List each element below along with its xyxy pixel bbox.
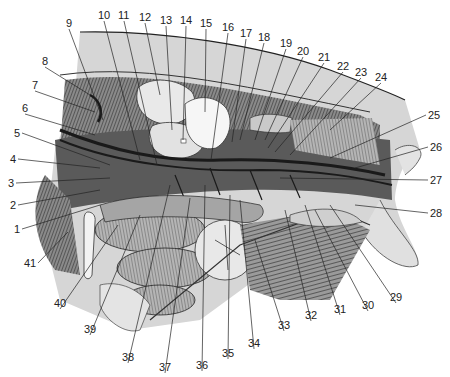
callout-label-13: 13 [160,15,172,26]
callout-label-36: 36 [196,360,208,371]
callout-label-6: 6 [22,103,28,114]
callout-label-34: 34 [248,338,260,349]
illustration-drawing [0,0,450,377]
callout-label-27: 27 [430,175,442,186]
callout-label-20: 20 [297,46,309,57]
callout-label-5: 5 [14,128,20,139]
anatomical-figure: 1234567891011121314151617181920212223242… [0,0,450,377]
callout-label-4: 4 [10,154,16,165]
callout-label-17: 17 [240,28,252,39]
callout-label-35: 35 [222,348,234,359]
callout-label-10: 10 [98,10,110,21]
callout-label-2: 2 [10,200,16,211]
callout-label-23: 23 [355,67,367,78]
callout-label-41: 41 [24,258,36,269]
callout-label-29: 29 [390,292,402,303]
callout-label-28: 28 [430,208,442,219]
callout-label-7: 7 [32,80,38,91]
callout-label-37: 37 [159,362,171,373]
callout-label-16: 16 [222,22,234,33]
callout-label-19: 19 [280,38,292,49]
callout-label-14: 14 [180,15,192,26]
callout-label-1: 1 [14,224,20,235]
callout-label-40: 40 [54,298,66,309]
callout-label-12: 12 [139,12,151,23]
callout-label-3: 3 [8,178,14,189]
callout-label-22: 22 [337,61,349,72]
callout-label-39: 39 [84,324,96,335]
callout-label-30: 30 [362,300,374,311]
callout-label-38: 38 [122,352,134,363]
callout-label-11: 11 [118,10,129,21]
callout-label-32: 32 [305,310,317,321]
callout-label-33: 33 [278,320,290,331]
callout-label-9: 9 [66,18,72,29]
callout-label-21: 21 [318,52,330,63]
callout-label-26: 26 [430,142,442,153]
callout-label-25: 25 [428,110,440,121]
callout-label-15: 15 [200,18,212,29]
callout-label-8: 8 [42,56,48,67]
callout-label-31: 31 [334,304,346,315]
callout-label-24: 24 [375,72,387,83]
callout-label-18: 18 [258,32,270,43]
